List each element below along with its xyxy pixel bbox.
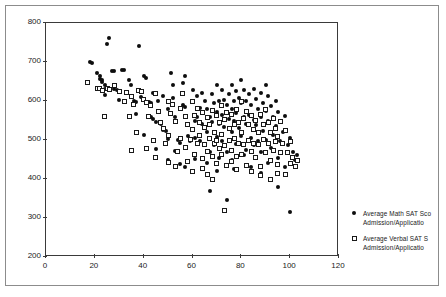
data-point-math: [266, 94, 270, 98]
data-point-verbal: [219, 103, 224, 108]
data-point-math: [278, 120, 282, 124]
data-point-verbal: [183, 145, 188, 150]
data-point-verbal: [283, 172, 288, 177]
data-point-math: [230, 83, 234, 87]
data-point-math: [103, 83, 107, 87]
data-point-verbal: [141, 97, 146, 102]
data-point-math: [161, 128, 165, 132]
data-point-verbal: [170, 102, 175, 107]
data-point-verbal: [239, 99, 244, 104]
data-point-verbal: [183, 114, 188, 119]
data-point-verbal: [271, 148, 276, 153]
data-point-math: [95, 71, 99, 75]
data-point-math: [242, 115, 246, 119]
x-axis-tick-mark: [240, 254, 241, 258]
data-point-math: [208, 189, 212, 193]
data-point-math: [266, 119, 270, 123]
data-point-verbal: [161, 126, 166, 131]
data-point-math: [183, 165, 187, 169]
data-point-math: [139, 95, 143, 99]
data-point-math: [232, 99, 236, 103]
data-point-verbal: [129, 94, 134, 99]
data-point-verbal: [214, 138, 219, 143]
data-point-verbal: [229, 148, 234, 153]
data-point-math: [247, 92, 251, 96]
data-point-verbal: [241, 116, 246, 121]
data-point-math: [200, 166, 204, 170]
data-point-verbal: [210, 108, 215, 113]
data-point-math: [242, 153, 246, 157]
data-point-verbal: [166, 160, 171, 165]
data-point-math: [286, 143, 290, 147]
data-point-verbal: [273, 126, 278, 131]
data-point-verbal: [166, 99, 171, 104]
data-point-verbal: [227, 138, 232, 143]
data-point-verbal: [200, 166, 205, 171]
data-point-math: [225, 198, 229, 202]
data-point-math: [222, 98, 226, 102]
data-point-math: [261, 101, 265, 105]
data-point-verbal: [288, 161, 293, 166]
data-point-math: [159, 122, 163, 126]
data-point-verbal: [244, 163, 249, 168]
data-point-math: [147, 100, 151, 104]
data-point-math: [134, 112, 138, 116]
data-point-verbal: [214, 113, 219, 118]
data-point-verbal: [261, 137, 266, 142]
data-point-math: [256, 139, 260, 143]
data-point-verbal: [217, 120, 222, 125]
data-point-verbal: [222, 208, 227, 213]
data-point-verbal: [256, 130, 261, 135]
data-point-math: [230, 107, 234, 111]
y-axis-tick-mark: [43, 178, 47, 179]
data-point-math: [264, 138, 268, 142]
data-point-math: [288, 136, 292, 140]
data-point-verbal: [251, 141, 256, 146]
data-point-verbal: [275, 162, 280, 167]
data-point-verbal: [173, 164, 178, 169]
legend-label-verbal-line1: Average Verbal SAT S: [363, 234, 443, 243]
data-point-math: [227, 117, 231, 121]
data-point-verbal: [127, 114, 132, 119]
data-point-verbal: [290, 155, 295, 160]
y-axis-tick-label: 700: [11, 57, 41, 65]
data-point-verbal: [288, 139, 293, 144]
data-point-math: [173, 115, 177, 119]
data-point-math: [230, 158, 234, 162]
data-point-math: [234, 142, 238, 146]
data-point-math: [103, 87, 107, 91]
y-axis-tick-label: 300: [11, 213, 41, 221]
data-point-math: [244, 148, 248, 152]
data-point-math: [105, 42, 109, 46]
data-point-math: [220, 88, 224, 92]
data-point-math: [205, 130, 209, 134]
data-point-math: [256, 107, 260, 111]
y-axis-tick-label: 500: [11, 135, 41, 143]
data-point-math: [98, 74, 102, 78]
data-point-math: [188, 139, 192, 143]
data-point-verbal: [214, 161, 219, 166]
data-point-math: [252, 87, 256, 91]
data-point-verbal: [205, 115, 210, 120]
chart-legend: Average Math SAT Sco Admission/Applicati…: [351, 209, 443, 259]
data-point-math: [269, 104, 273, 108]
data-point-math: [193, 136, 197, 140]
legend-marker-verbal-icon: [352, 236, 357, 241]
data-point-math: [98, 77, 102, 81]
data-point-math: [193, 157, 197, 161]
data-point-math: [252, 143, 256, 147]
data-point-verbal: [271, 116, 276, 121]
data-point-math: [100, 78, 104, 82]
data-point-verbal: [241, 142, 246, 147]
data-point-verbal: [156, 109, 161, 114]
data-point-math: [178, 162, 182, 166]
data-point-verbal: [185, 159, 190, 164]
data-point-math: [212, 143, 216, 147]
data-point-math: [176, 138, 180, 142]
data-point-verbal: [173, 119, 178, 124]
data-point-verbal: [207, 122, 212, 127]
data-point-math: [291, 150, 295, 154]
data-point-math: [171, 96, 175, 100]
scatter-plot-figure: Average Math SAT Sco Admission/Applicati…: [0, 0, 446, 297]
data-point-math: [186, 122, 190, 126]
